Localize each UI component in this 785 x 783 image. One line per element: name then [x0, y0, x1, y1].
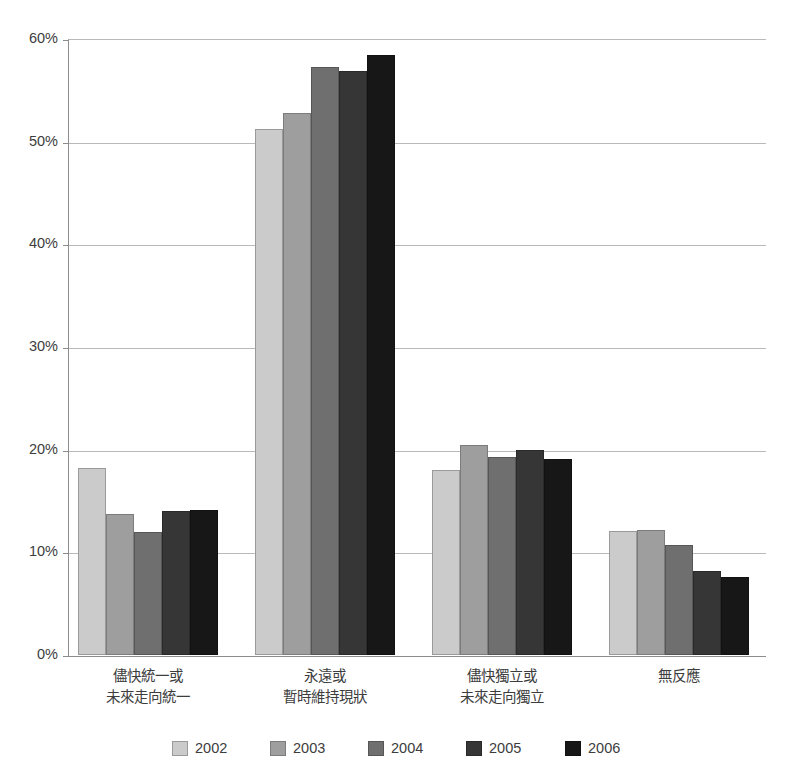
y-axis-tick-label: 40% [0, 235, 58, 251]
bar [432, 470, 460, 655]
bar [367, 55, 395, 655]
y-axis-tick-label: 50% [0, 133, 58, 149]
legend-item-2006[interactable]: 2006 [565, 738, 620, 758]
bar [134, 532, 162, 655]
legend-color-swatch [368, 741, 384, 756]
bars-layer [68, 39, 765, 655]
legend-color-swatch [565, 741, 581, 756]
y-axis-labels: 60%50%40%30%20%10%0% [0, 0, 62, 783]
legend-label: 2005 [489, 740, 521, 756]
category-label-line: 未來走向統一 [58, 687, 238, 708]
x-axis-category-label: 無反應 [589, 666, 769, 687]
x-axis-category-labels: 儘快統一或未來走向統一永遠或暫時維持現狀儘快獨立或未來走向獨立無反應 [68, 666, 765, 722]
chart-legend: 20022003200420052006 [68, 738, 765, 762]
x-axis-baseline [69, 656, 766, 657]
bar [665, 545, 693, 655]
legend-label: 2002 [195, 740, 227, 756]
bar [311, 67, 339, 655]
bar [488, 457, 516, 655]
legend-item-2002[interactable]: 2002 [172, 738, 227, 758]
bar [255, 129, 283, 655]
bar [609, 531, 637, 655]
category-label-line: 儘快獨立或 [412, 666, 592, 687]
bar [78, 468, 106, 655]
bar [339, 71, 367, 655]
category-label-line: 暫時維持現狀 [235, 687, 415, 708]
bar [693, 571, 721, 655]
y-axis-tick-label: 10% [0, 543, 58, 559]
bar [162, 511, 190, 655]
legend-color-swatch [466, 741, 482, 756]
legend-item-2004[interactable]: 2004 [368, 738, 423, 758]
bar [106, 514, 134, 655]
bar [516, 450, 544, 655]
x-axis-category-label: 儘快統一或未來走向統一 [58, 666, 238, 708]
y-axis-tick-label: 20% [0, 441, 58, 457]
y-axis-tick-mark [63, 656, 69, 657]
legend-label: 2004 [391, 740, 423, 756]
legend-color-swatch [270, 741, 286, 756]
bar [544, 459, 572, 655]
legend-label: 2006 [588, 740, 620, 756]
legend-item-2005[interactable]: 2005 [466, 738, 521, 758]
bar [721, 577, 749, 655]
y-axis-tick-label: 0% [0, 646, 58, 662]
legend-color-swatch [172, 741, 188, 756]
category-label-line: 永遠或 [235, 666, 415, 687]
legend-label: 2003 [293, 740, 325, 756]
bar [637, 530, 665, 655]
y-axis-tick-label: 60% [0, 30, 58, 46]
bar [190, 510, 218, 655]
bar [283, 113, 311, 655]
bar [460, 445, 488, 655]
category-label-line: 無反應 [589, 666, 769, 687]
category-label-line: 儘快統一或 [58, 666, 238, 687]
x-axis-category-label: 永遠或暫時維持現狀 [235, 666, 415, 708]
x-axis-category-label: 儘快獨立或未來走向獨立 [412, 666, 592, 708]
y-axis-tick-label: 30% [0, 338, 58, 354]
chart-page: 60%50%40%30%20%10%0% 儘快統一或未來走向統一永遠或暫時維持現… [0, 0, 785, 783]
legend-item-2003[interactable]: 2003 [270, 738, 325, 758]
category-label-line: 未來走向獨立 [412, 687, 592, 708]
